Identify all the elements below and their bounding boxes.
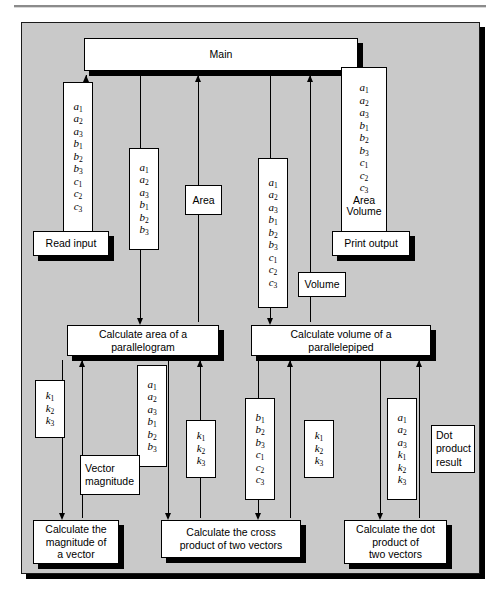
module-calculate-magnitude-line1: Calculate the	[42, 523, 109, 536]
arrowhead-to-area-magnitude	[79, 360, 85, 367]
data-couple-item: c3	[269, 277, 278, 290]
data-couple-item: c3	[74, 201, 83, 214]
module-calculate-dot-product[interactable]: Calculate the dot product of two vectors	[344, 520, 447, 564]
data-couple-item: k3	[46, 415, 55, 428]
module-read-input[interactable]: Read input	[33, 231, 109, 256]
data-couple-item: k3	[398, 474, 407, 487]
arrowhead-to-calcarea	[137, 318, 143, 325]
data-couple-cross-output-k-volume: k1k2k3	[304, 420, 334, 478]
arrowhead-to-main-volume	[307, 75, 313, 82]
module-print-output-label: Print output	[341, 237, 401, 250]
data-couple-item: Area	[192, 195, 214, 206]
module-calculate-volume-line1: Calculate volume of a	[288, 328, 395, 341]
data-couple-item: product	[436, 442, 471, 455]
module-calculate-cross-line2: product of two vectors	[177, 539, 286, 552]
arrowhead-to-magnitude	[59, 513, 65, 520]
header-rule	[14, 5, 486, 7]
arrowhead-to-volume-cross	[287, 360, 293, 367]
module-read-input-label: Read input	[43, 237, 100, 250]
arrowhead-to-main-readinput	[83, 75, 89, 82]
data-couple-cross-output-k-area: k1k2k3	[186, 420, 216, 478]
module-calculate-magnitude[interactable]: Calculate the magnitude of a vector	[33, 520, 119, 564]
data-couple-volume-input: a1a2a3b1b2b3c1c2c3	[258, 158, 288, 308]
module-calculate-cross-product[interactable]: Calculate the cross product of two vecto…	[161, 520, 301, 558]
arrowhead-to-dot	[377, 513, 383, 520]
data-couple-read-input-output: a1a2a3b1b2b3c1c2c3	[63, 82, 93, 232]
module-calculate-volume[interactable]: Calculate volume of a parallelepiped	[251, 325, 431, 356]
data-couple-cross-input-ab: a1a2a3b1b2b3	[137, 365, 167, 467]
module-calculate-area-line1: Calculate area of a	[96, 328, 190, 341]
data-couple-item: k3	[315, 455, 324, 468]
data-couple-item: Volume	[346, 206, 381, 217]
data-couple-dot-input: a1a2a3k1k2k3	[387, 398, 417, 500]
data-couple-item: b3	[139, 224, 148, 237]
module-calculate-dot-line3: two vectors	[366, 548, 425, 561]
line-volume-dot	[380, 360, 381, 518]
arrowhead-to-main-area	[195, 75, 201, 82]
module-main[interactable]: Main	[84, 38, 358, 71]
data-couple-item: Vector	[85, 462, 115, 475]
data-couple-area-input: a1a2a3b1b2b3	[129, 148, 159, 250]
line-dot-return	[419, 360, 420, 518]
data-couple-dot-result: Dotproductresult	[431, 425, 475, 473]
data-couple-item: Volume	[304, 279, 339, 290]
arrowhead-to-volume-dot	[416, 360, 422, 367]
data-couple-area-output: Area	[185, 185, 222, 215]
module-print-output[interactable]: Print output	[332, 231, 410, 256]
data-couple-item: c3	[256, 474, 265, 487]
module-calculate-cross-line1: Calculate the cross	[183, 526, 278, 539]
data-couple-item: magnitude	[85, 475, 134, 488]
data-couple-item: b3	[147, 441, 156, 454]
data-couple-item: result	[436, 456, 462, 469]
module-calculate-dot-line1: Calculate the dot	[353, 523, 438, 536]
data-couple-magnitude-return-k: k1k2k3	[35, 380, 65, 438]
module-main-label: Main	[207, 48, 236, 61]
module-calculate-dot-line2: product of	[369, 536, 422, 549]
data-couple-print-input: a1a2a3b1b2b3c1c2c3AreaVolume	[341, 67, 387, 232]
arrowhead-to-calcvolume	[267, 318, 273, 325]
data-couple-volume-output: Volume	[298, 272, 346, 297]
arrowhead-to-area-cross	[197, 360, 203, 367]
data-couple-item: k3	[197, 455, 206, 468]
line-area-cross	[168, 360, 169, 518]
module-calculate-area-line2: parallelogram	[108, 341, 178, 354]
module-calculate-area[interactable]: Calculate area of a parallelogram	[67, 325, 219, 356]
module-calculate-magnitude-line3: a vector	[54, 548, 97, 561]
arrowhead-to-cross-from-area	[165, 513, 171, 520]
data-couple-vector-magnitude: Vectormagnitude	[80, 455, 140, 495]
arrowhead-to-cross-from-volume	[255, 513, 261, 520]
module-calculate-volume-line2: parallelepiped	[305, 341, 376, 354]
data-couple-cross-input-bc: b1b2b3c1c2c3	[245, 398, 275, 500]
module-calculate-magnitude-line2: magnitude of	[43, 536, 110, 549]
data-couple-item: Dot	[436, 429, 452, 442]
line-cross-return-volume	[290, 360, 291, 518]
structure-chart-figure: Main Read input Print output Calculate a…	[0, 0, 500, 610]
